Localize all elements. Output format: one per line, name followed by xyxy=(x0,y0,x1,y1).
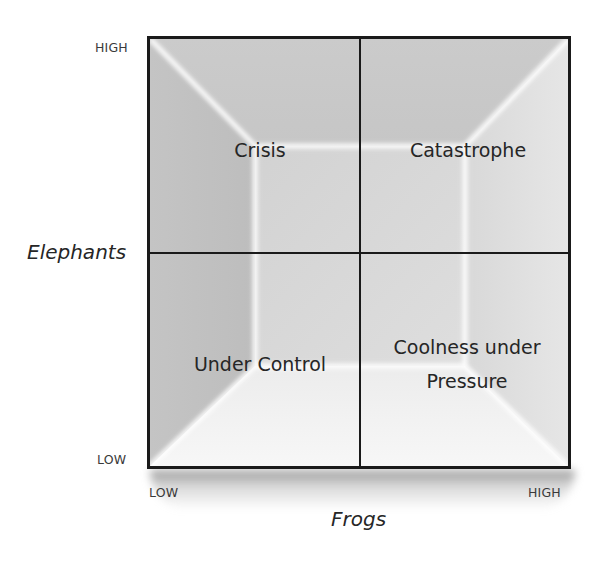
x-axis-high-label: HIGH xyxy=(528,485,561,500)
matrix-drop-shadow xyxy=(150,470,575,510)
horizontal-divider xyxy=(150,252,568,254)
matrix-diagram: Crisis Catastrophe Under Control Coolnes… xyxy=(0,0,601,561)
y-axis-low-label: LOW xyxy=(97,452,126,467)
x-axis-low-label: LOW xyxy=(149,485,178,500)
y-axis-high-label: HIGH xyxy=(95,40,128,55)
quadrant-label-coolness-line2: Pressure xyxy=(362,369,571,393)
quadrant-label-crisis: Crisis xyxy=(210,138,310,162)
y-axis-title: Elephants xyxy=(27,240,126,264)
quadrant-label-coolness-line1: Coolness under xyxy=(362,335,571,359)
quadrant-label-catastrophe: Catastrophe xyxy=(378,138,558,162)
x-axis-title: Frogs xyxy=(331,507,386,531)
quadrant-label-under-control: Under Control xyxy=(160,352,360,376)
matrix-box: Crisis Catastrophe Under Control Coolnes… xyxy=(147,36,571,469)
